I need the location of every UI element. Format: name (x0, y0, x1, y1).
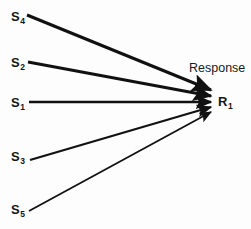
stimulus-node-s3-symbol: S (11, 149, 20, 164)
stimulus-node-s5-subscript: 5 (20, 209, 25, 219)
arrow-group (27, 15, 211, 211)
stimulus-node-s1: S1 (11, 96, 24, 109)
stimulus-node-s1-subscript: 1 (20, 102, 25, 112)
response-node-r1-subscript: 1 (228, 101, 233, 111)
response-caption: Response (189, 62, 245, 75)
response-node-r1-symbol: R (218, 94, 227, 109)
stimulus-node-s5-symbol: S (11, 202, 20, 217)
stimulus-node-s4-symbol: S (11, 9, 20, 24)
stimulus-node-s3: S3 (11, 150, 24, 163)
stimulus-response-diagram: S4 S2 S1 S3 S5 R1 Response (0, 0, 251, 229)
stimulus-node-s4: S4 (11, 10, 24, 23)
stimulus-node-s3-subscript: 3 (20, 156, 25, 166)
stimulus-node-s2-subscript: 2 (20, 62, 25, 72)
stimulus-node-s2: S2 (11, 56, 24, 69)
arrow-s3-to-r1 (30, 107, 211, 160)
stimulus-node-s5: S5 (11, 203, 24, 216)
stimulus-node-s4-subscript: 4 (20, 16, 25, 26)
response-node-r1: R1 (218, 95, 232, 108)
stimulus-node-s2-symbol: S (11, 55, 20, 70)
arrow-s5-to-r1 (29, 112, 211, 211)
diagram-canvas (0, 0, 251, 229)
stimulus-node-s1-symbol: S (11, 95, 20, 110)
